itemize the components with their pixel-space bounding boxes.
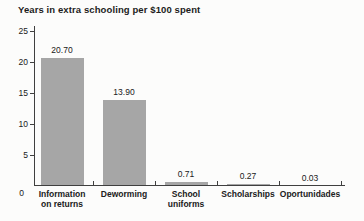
y-tick-label: 10: [6, 119, 28, 129]
bar-value-label: 0.71: [161, 169, 211, 179]
y-tick-label: 5: [6, 150, 28, 160]
category-label-line: on returns: [20, 199, 104, 209]
y-tick-label: 20: [6, 57, 28, 67]
bar: [103, 100, 146, 186]
bar-value-label: 20.70: [37, 45, 87, 55]
plot-area: 20.70Informationon returns13.90Deworming…: [0, 0, 364, 221]
x-axis-line: [34, 185, 345, 186]
bar-value-label: 0.03: [285, 173, 335, 183]
bar: [41, 58, 84, 186]
y-tick-label: 25: [6, 26, 28, 36]
bar-value-label: 0.27: [223, 171, 273, 181]
y-axis-line: [34, 26, 35, 186]
y-tick-label: 0: [2, 188, 24, 198]
y-tick-label: 15: [6, 88, 28, 98]
category-label: Oportunidades: [268, 189, 352, 199]
category-label-line: uniforms: [144, 199, 228, 209]
bar-chart: Years in extra schooling per $100 spent …: [0, 0, 364, 221]
category-label-line: Oportunidades: [268, 189, 352, 199]
bar-value-label: 13.90: [99, 87, 149, 97]
